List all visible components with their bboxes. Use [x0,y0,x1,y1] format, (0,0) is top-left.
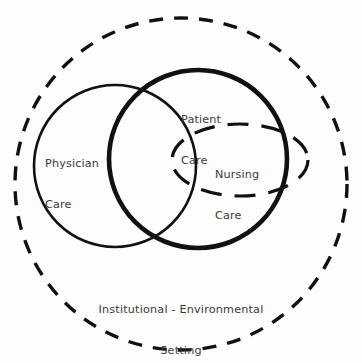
institutional-setting-label-line1: Institutional - Environmental [0,303,362,317]
venn-diagram-figure: Physician Care Patient Care Nursing Care… [0,0,362,363]
institutional-environmental-setting-label: Institutional - Environmental Setting [0,276,362,363]
physician-care-label: Physician Care [45,130,99,238]
physician-care-label-line2: Care [45,198,99,212]
nursing-care-label-line2: Care [215,209,259,223]
nursing-care-label-line1: Nursing [215,168,259,182]
patient-care-label-line1: Patient [181,113,221,127]
physician-care-label-line1: Physician [45,157,99,171]
institutional-setting-label-line2: Setting [0,344,362,358]
nursing-care-label: Nursing Care [215,141,259,249]
